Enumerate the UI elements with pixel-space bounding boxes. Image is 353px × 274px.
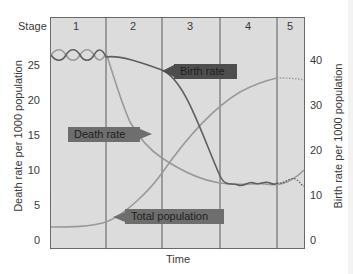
left-tick-20: 20 (28, 94, 40, 106)
right-tick-10: 10 (310, 189, 322, 201)
chart-lines (0, 0, 353, 274)
death-rate-pointer (140, 129, 152, 139)
death-rate-callout: Death rate (68, 127, 140, 142)
left-tick-5: 5 (34, 199, 40, 211)
stage-label-1: 1 (73, 20, 79, 32)
right-tick-0: 0 (310, 234, 316, 246)
population-pointer (113, 212, 125, 222)
stage-label-3: 3 (187, 20, 193, 32)
total-population-dotted (277, 78, 304, 80)
left-tick-15: 15 (28, 129, 40, 141)
total-population-callout: Total population (125, 209, 224, 224)
right-tick-20: 20 (310, 144, 322, 156)
stage-label-2: 2 (130, 20, 136, 32)
birth-rate-callout: Birth rate (174, 64, 237, 79)
total-population-line (51, 78, 277, 227)
left-tick-25: 25 (28, 59, 40, 71)
y-axis-left-title: Death rate per 1000 population (12, 56, 24, 216)
birth-rate-pointer (162, 65, 174, 77)
page-edge (348, 0, 353, 274)
left-tick-10: 10 (28, 164, 40, 176)
right-tick-40: 40 (310, 54, 322, 66)
stage-label-5: 5 (287, 20, 293, 32)
x-axis-title: Time (166, 253, 190, 265)
stage-header: Stage (18, 20, 47, 32)
right-tick-30: 30 (310, 99, 322, 111)
left-tick-0: 0 (34, 234, 40, 246)
y-axis-right-title: Birth rate per 1000 population (332, 56, 344, 216)
stage-label-4: 4 (245, 20, 251, 32)
